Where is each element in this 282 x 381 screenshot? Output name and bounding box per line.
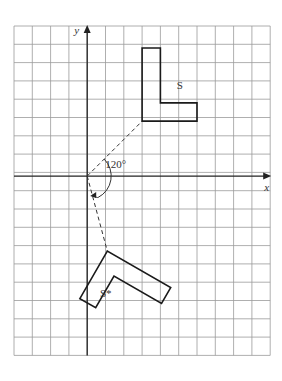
shape-s-star-label: S* [100,287,112,299]
y-axis-label: y [73,24,79,36]
shape-s-original [142,48,197,121]
shape-s-label: S [177,79,183,91]
rotation-diagram: x y S S* 120° [0,0,282,381]
shape-s-star-rotated [80,251,171,308]
angle-label: 120° [105,158,126,170]
x-axis-label: x [263,181,269,193]
dashed-line-to-image [87,176,107,251]
